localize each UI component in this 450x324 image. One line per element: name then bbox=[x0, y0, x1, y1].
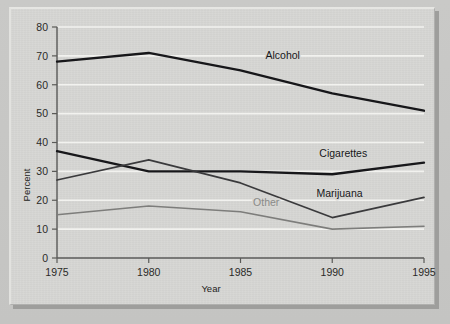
y-tick-group: 01020304050607080 bbox=[36, 21, 57, 264]
x-tick-label: 1990 bbox=[321, 266, 345, 278]
x-tick-label: 1995 bbox=[412, 266, 436, 278]
x-axis-title: Year bbox=[201, 283, 220, 294]
line-chart: 01020304050607080 19751980198519901995 A… bbox=[0, 0, 450, 324]
y-tick-label: 80 bbox=[36, 21, 48, 33]
y-tick-label: 70 bbox=[36, 50, 48, 62]
series-label-cigarettes: Cigarettes bbox=[319, 147, 367, 159]
y-tick-label: 20 bbox=[36, 194, 48, 206]
figure-mount: 01020304050607080 19751980198519901995 A… bbox=[0, 0, 450, 324]
series-label-other: Other bbox=[253, 196, 280, 208]
y-tick-label: 10 bbox=[36, 223, 48, 235]
y-tick-label: 60 bbox=[36, 79, 48, 91]
x-tick-label: 1985 bbox=[229, 266, 253, 278]
x-tick-group: 19751980198519901995 bbox=[45, 258, 436, 278]
y-tick-label: 0 bbox=[42, 252, 48, 264]
y-tick-label: 30 bbox=[36, 165, 48, 177]
x-tick-label: 1980 bbox=[137, 266, 161, 278]
series-label-group: AlcoholCigarettesMarijuanaOther bbox=[253, 49, 367, 208]
series-label-alcohol: Alcohol bbox=[265, 49, 299, 61]
series-label-marijuana: Marijuana bbox=[317, 187, 363, 199]
y-tick-label: 50 bbox=[36, 107, 48, 119]
series-group bbox=[57, 53, 424, 229]
x-tick-label: 1975 bbox=[45, 266, 69, 278]
y-tick-label: 40 bbox=[36, 136, 48, 148]
series-line-alcohol bbox=[57, 53, 424, 111]
y-axis-title: Percent bbox=[21, 168, 32, 201]
